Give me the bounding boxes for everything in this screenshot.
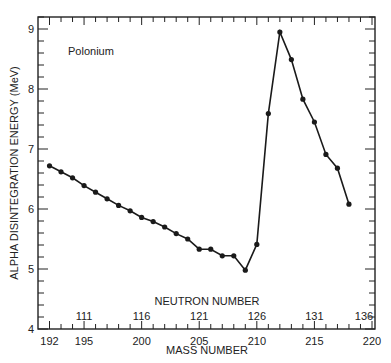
data-point [312, 119, 317, 124]
data-point [197, 247, 202, 252]
x2-axis-label: NEUTRON NUMBER [154, 295, 259, 307]
y-tick-label: 7 [28, 143, 34, 155]
data-point [243, 268, 248, 273]
data-point [58, 169, 63, 174]
x-axis-label: MASS NUMBER [166, 344, 248, 356]
data-point [151, 219, 156, 224]
data-point [116, 203, 121, 208]
y-axis-label: ALPHA DISINTEGRATION ENERGY (MeV) [8, 66, 20, 280]
data-point [128, 208, 133, 213]
y-tick-label: 6 [28, 203, 34, 215]
x2-tick-label: 116 [133, 310, 151, 322]
x2-tick-label: 111 [76, 310, 93, 322]
x-tick-label: 192 [40, 335, 58, 347]
x-tick-label: 210 [248, 335, 266, 347]
x2-tick-label: 121 [190, 310, 208, 322]
data-point [335, 166, 340, 171]
y-tick-label: 4 [28, 323, 34, 335]
x2-tick-label: 136 [355, 310, 373, 322]
data-point [254, 242, 259, 247]
x2-tick-label: 131 [305, 310, 323, 322]
annotation-polonium: Polonium [68, 45, 114, 57]
data-point [346, 202, 351, 207]
data-point [174, 231, 179, 236]
alpha-energy-chart: 1921952002052102152201111161211261311364… [0, 0, 391, 363]
data-point [81, 183, 86, 188]
data-point [231, 253, 236, 258]
data-point [208, 247, 213, 252]
x-tick-label: 215 [305, 335, 323, 347]
x2-tick-label: 126 [248, 310, 266, 322]
data-series [47, 29, 352, 272]
data-point [300, 97, 305, 102]
data-point [162, 224, 167, 229]
x-tick-label: 195 [75, 335, 93, 347]
x-tick-label: 200 [132, 335, 150, 347]
data-point [185, 236, 190, 241]
data-point [289, 57, 294, 62]
x-tick-label: 220 [363, 335, 381, 347]
data-point [220, 253, 225, 258]
data-point [70, 175, 75, 180]
data-point [323, 152, 328, 157]
y-tick-label: 5 [28, 263, 34, 275]
data-point [277, 29, 282, 34]
data-point [139, 215, 144, 220]
data-point [93, 190, 98, 195]
data-point [47, 163, 52, 168]
y-tick-label: 9 [28, 23, 34, 35]
y-tick-label: 8 [28, 83, 34, 95]
data-point [104, 196, 109, 201]
data-point [266, 111, 271, 116]
